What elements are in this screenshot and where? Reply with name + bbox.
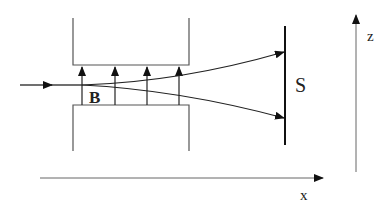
lower-magnet-pole xyxy=(73,105,189,151)
upper-magnet-pole xyxy=(73,18,189,65)
deflected-beam-up xyxy=(82,52,284,85)
screen-label: S xyxy=(295,74,306,96)
z-axis-label: z xyxy=(367,28,374,44)
deflected-beam-down xyxy=(82,85,284,118)
field-label: B xyxy=(89,88,100,107)
diagram-canvas: B S z x xyxy=(0,0,391,211)
x-axis-label: x xyxy=(300,187,308,203)
